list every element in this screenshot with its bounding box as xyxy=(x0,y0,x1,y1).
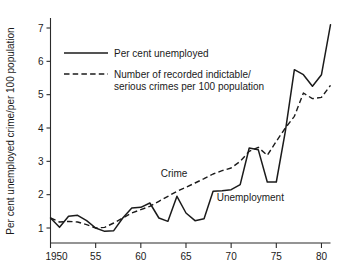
y-tick-label: 3 xyxy=(38,156,44,167)
y-tick-label: 7 xyxy=(38,23,44,34)
legend-label-crime-line1: Number of recorded indictable/ xyxy=(114,69,251,80)
x-tick-labels: 1950556065707580 xyxy=(45,251,327,262)
y-tick-label: 4 xyxy=(38,123,44,134)
x-tick-label: 1950 xyxy=(45,251,68,262)
chart-container: 1234567 1950556065707580 Per cent unempl… xyxy=(0,0,354,276)
x-tick-label: 60 xyxy=(135,251,147,262)
x-tick-label: 55 xyxy=(90,251,102,262)
x-tick-label: 65 xyxy=(180,251,192,262)
x-tick-label: 70 xyxy=(226,251,238,262)
legend-label-unemployed: Per cent unemployed xyxy=(114,48,209,59)
x-tick-marks xyxy=(51,243,322,248)
y-tick-label: 1 xyxy=(38,223,44,234)
y-tick-label: 6 xyxy=(38,56,44,67)
legend-label-crime-line2: serious crimes per 100 population xyxy=(114,81,264,92)
y-tick-label: 5 xyxy=(38,89,44,100)
line-chart: 1234567 1950556065707580 Per cent unempl… xyxy=(0,0,354,276)
x-tick-label: 75 xyxy=(271,251,283,262)
annotation-unemployment: Unemployment xyxy=(217,192,284,203)
y-axis-title: Per cent unemployed crime/per 100 popula… xyxy=(5,27,16,234)
chart-legend: Per cent unemployed Number of recorded i… xyxy=(64,48,264,92)
x-tick-label: 80 xyxy=(316,251,328,262)
y-tick-marks xyxy=(47,28,51,228)
annotation-crime: Crime xyxy=(161,168,188,179)
y-tick-labels: 1234567 xyxy=(38,23,44,234)
y-tick-label: 2 xyxy=(38,189,44,200)
